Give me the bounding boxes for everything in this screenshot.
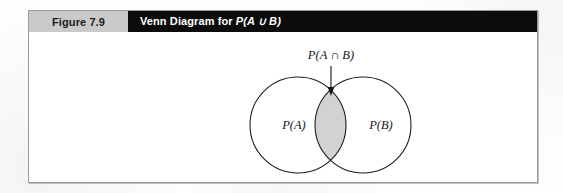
left-circle-label: P(A): [281, 118, 306, 132]
venn-diagram-body: P(A ∩ B) P(A) P(B): [29, 32, 537, 182]
venn-diagram-svg: P(A ∩ B) P(A) P(B): [29, 32, 537, 182]
figure-title-prefix: Venn Diagram for: [140, 15, 236, 27]
figure-title-bar: Venn Diagram for P(A ∪ B): [128, 11, 537, 32]
figure-number-box: Figure 7.9: [29, 11, 128, 32]
figure-number-label: Figure 7.9: [52, 16, 105, 28]
figure-page: Figure 7.9 Venn Diagram for P(A ∪ B): [0, 0, 563, 193]
right-circle-label: P(B): [368, 118, 393, 132]
figure-title-expression: P(A ∪ B): [236, 15, 281, 27]
figure-header: Figure 7.9 Venn Diagram for P(A ∪ B): [29, 11, 537, 32]
intersection-label: P(A ∩ B): [307, 48, 354, 62]
figure-frame: Figure 7.9 Venn Diagram for P(A ∪ B): [28, 10, 538, 183]
figure-title: Venn Diagram for P(A ∪ B): [140, 15, 281, 28]
